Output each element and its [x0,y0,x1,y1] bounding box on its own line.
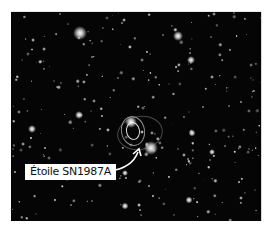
star-name-label: Étoile SN1987A [25,164,116,180]
pointer-arrow-icon [0,0,269,227]
